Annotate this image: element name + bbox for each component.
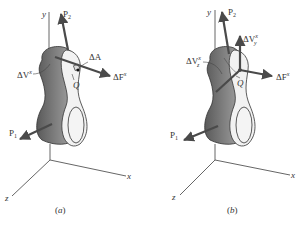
label-x-axis: x: [126, 171, 131, 181]
label-delta-f: ΔFx: [113, 71, 127, 82]
caption-a: (a): [55, 205, 66, 215]
label-z-axis: z: [4, 193, 9, 203]
label-z-axis: z: [171, 192, 176, 202]
cut-body-b: [205, 47, 255, 147]
bottom-face: [236, 107, 252, 143]
cut-body-a: [37, 47, 87, 147]
label-p1: P1: [170, 130, 178, 141]
x-axis: [50, 160, 126, 176]
figure-b: y P2 ΔVxy ΔVxz ΔFx Q P1 x z (b): [170, 7, 295, 215]
x-axis: [215, 160, 290, 175]
label-delta-f: ΔFx: [276, 71, 290, 82]
z-axis: [12, 160, 50, 196]
label-delta-a: ΔA: [89, 52, 102, 62]
label-y-axis: y: [41, 9, 46, 19]
label-p2: P2: [63, 9, 71, 20]
bottom-face: [68, 107, 84, 143]
label-delta-vy: ΔVxy: [243, 33, 258, 46]
label-p1: P1: [9, 128, 17, 139]
point-q: [76, 68, 79, 71]
z-axis: [180, 160, 215, 195]
force-p2: [61, 14, 68, 50]
label-y-axis: y: [206, 7, 211, 17]
caption-b: (b): [227, 205, 238, 215]
label-p2: P2: [228, 7, 236, 18]
figure-a: y P2 ΔA ΔVx ΔFx Q P1 x z (a): [4, 9, 131, 215]
label-x-axis: x: [290, 170, 295, 180]
label-q: Q: [73, 80, 80, 90]
label-q: Q: [237, 78, 244, 88]
label-delta-vz: ΔVxz: [186, 55, 201, 68]
label-delta-v: ΔVx: [17, 69, 32, 80]
diagram-canvas: y P2 ΔA ΔVx ΔFx Q P1 x z (a): [0, 0, 302, 225]
